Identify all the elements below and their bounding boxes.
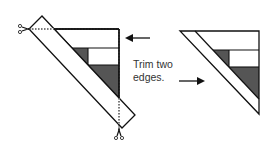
arrow-left-icon <box>125 34 150 42</box>
caption: Trim two edges. <box>133 58 173 84</box>
arrow-right-icon <box>179 77 205 85</box>
caption-line-2: edges. <box>133 71 173 84</box>
after-trim-figure <box>180 31 259 114</box>
before-trim-figure <box>18 16 135 140</box>
caption-line-1: Trim two <box>133 58 173 71</box>
scissors-icon <box>18 24 32 33</box>
